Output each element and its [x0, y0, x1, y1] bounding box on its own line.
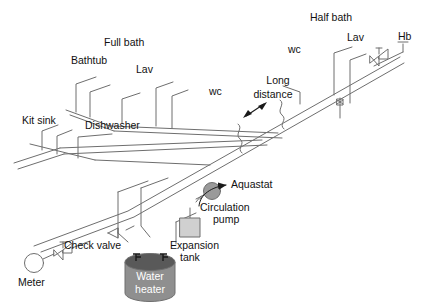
- riser-bathtub-1: [76, 77, 96, 112]
- riser-kit-sink-1: [42, 125, 58, 150]
- label-check-valve: Check valve: [64, 240, 121, 252]
- label-circulation-pump-line2: pump: [213, 214, 239, 226]
- riser-lav-left-1: [156, 82, 173, 126]
- circulation-pump-symbol: [204, 183, 221, 200]
- label-meter: Meter: [18, 277, 45, 289]
- gate-valve-meter-body: [54, 250, 63, 260]
- long-distance-arrow: [243, 102, 267, 118]
- label-bathtub: Bathtub: [71, 55, 107, 67]
- label-expansion-tank-line2: tank: [180, 252, 200, 264]
- branch-main-b-ext: [18, 154, 64, 169]
- label-lav-right: Lav: [347, 32, 364, 44]
- label-water-heater-line2: heater: [125, 284, 175, 296]
- label-long-distance-line2: distance: [240, 89, 306, 101]
- gate-valve-hb-stem: [376, 48, 382, 54]
- label-expansion-tank-line1: Expansion: [170, 240, 219, 252]
- fixture-header-lower-left: [30, 144, 95, 160]
- label-aquastat: Aquastat: [231, 179, 272, 191]
- label-half-bath: Half bath: [310, 12, 352, 24]
- meter-symbol: [25, 254, 44, 273]
- diagram-canvas: [0, 0, 424, 304]
- label-wc-left: wc: [209, 86, 222, 98]
- riser-lav-right-1: [334, 47, 352, 95]
- riser-bathtub-2: [90, 85, 110, 117]
- label-full-bath: Full bath: [104, 37, 144, 49]
- label-water-heater-line1: Water: [125, 271, 175, 283]
- check-valve-body: [108, 228, 118, 238]
- gate-valve-hb-body2: [379, 49, 388, 59]
- riser-kit-sink-2: [57, 130, 72, 154]
- check-valve-outlet: [126, 226, 134, 230]
- riser-lav-left-2: [172, 90, 188, 128]
- plumbing-isometric-diagram: Full bath Bathtub Lav Kit sink Dishwashe…: [0, 0, 424, 304]
- meter-outlet-pipe: [43, 254, 54, 259]
- label-dishwasher: Dishwasher: [85, 120, 140, 132]
- label-wc-right: wc: [288, 44, 301, 56]
- heater-hot-top: [141, 178, 168, 188]
- branch-main-a-ext: [14, 148, 60, 163]
- expansion-tank-body: [180, 218, 200, 237]
- hose-bib-symbol: [398, 42, 408, 52]
- label-hb: Hb: [398, 31, 411, 43]
- label-long-distance-line1: Long: [250, 75, 306, 87]
- label-lav-left: Lav: [136, 64, 153, 76]
- riser-lav-right-2: [350, 54, 366, 103]
- label-circulation-pump-line1: Circulation: [200, 202, 250, 214]
- heater-cold-top: [118, 181, 148, 192]
- fixture-header-lower: [95, 160, 210, 165]
- gate-valve-hb-body: [370, 56, 379, 66]
- label-kit-sink: Kit sink: [22, 115, 56, 127]
